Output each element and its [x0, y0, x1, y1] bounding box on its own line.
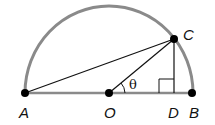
label-B: B [189, 104, 199, 121]
right-angle-marker [159, 79, 174, 93]
label-A: A [18, 104, 29, 121]
point-O [105, 89, 113, 97]
point-C [170, 35, 178, 43]
point-B [188, 89, 196, 97]
semicircle-arc [25, 6, 193, 93]
label-D: D [168, 104, 179, 121]
point-A [21, 89, 29, 97]
segment-OC [109, 39, 174, 93]
segment-AC [25, 39, 174, 93]
label-O: O [104, 104, 116, 121]
semicircle-diagram: A O D B C θ [0, 0, 215, 125]
label-C: C [183, 26, 194, 43]
label-theta: θ [129, 77, 137, 92]
angle-arc-theta [121, 83, 125, 93]
